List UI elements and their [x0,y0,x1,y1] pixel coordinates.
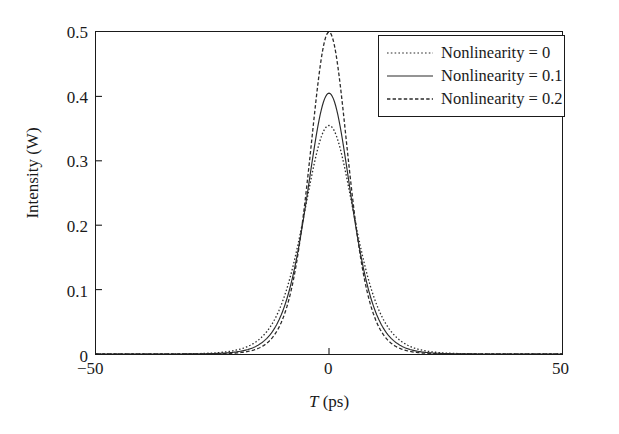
legend-item-nonlinearity-01: Nonlinearity = 0.1 [387,64,556,87]
x-tick-minus50: −50 [77,360,104,377]
legend-item-nonlinearity-0: Nonlinearity = 0 [387,41,556,64]
x-tick-50: 50 [552,360,569,377]
axis-tick-marks [96,96,329,354]
legend-item-nonlinearity-02: Nonlinearity = 0.2 [387,87,556,110]
series-line [96,93,562,354]
x-tick-0: 0 [324,360,333,377]
legend-swatch-solid-icon [387,70,433,82]
legend-label-nonlinearity-0: Nonlinearity = 0 [441,43,550,63]
figure: Intensity (W) 0.5 0.4 0.3 0.2 0.1 0 −50 … [0,0,619,434]
y-tick-0.1: 0.1 [67,283,88,300]
y-tick-0.5: 0.5 [67,24,88,41]
y-tick-0.4: 0.4 [67,89,88,106]
legend-swatch-dotted-icon [387,47,433,59]
legend-label-nonlinearity-02: Nonlinearity = 0.2 [441,89,563,109]
x-axis-label-variable: T [309,392,318,411]
legend: Nonlinearity = 0 Nonlinearity = 0.1 Nonl… [378,35,565,117]
legend-label-nonlinearity-01: Nonlinearity = 0.1 [441,66,563,86]
x-axis-label: T (ps) [95,392,563,412]
series-line [96,125,562,354]
legend-swatch-dashed-icon [387,93,433,105]
y-tick-0.2: 0.2 [67,218,88,235]
y-tick-0.3: 0.3 [67,153,88,170]
x-axis-label-unit: (ps) [318,392,349,411]
